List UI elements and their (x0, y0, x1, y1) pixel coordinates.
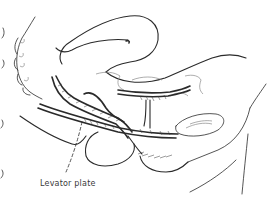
label-leader-line (66, 122, 82, 172)
perineum-outline (20, 84, 266, 194)
sacrum-outline (1, 17, 42, 178)
vulva-outline (176, 114, 224, 136)
levator-plate-label: Levator plate (40, 179, 96, 188)
uterus-outline (56, 16, 158, 72)
anatomy-illustration: Levator plate (0, 0, 274, 214)
